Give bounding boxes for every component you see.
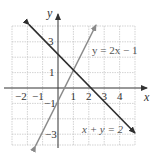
x-tick-m2: −2	[15, 90, 27, 102]
x-tick-2: 2	[86, 90, 92, 102]
graph: x y −2 −1 1 2 3 4 3 1 −1 −3 y = 2x − 1 x…	[0, 0, 159, 158]
y-tick-m3: −3	[45, 128, 57, 140]
x-tick-1: 1	[71, 90, 77, 102]
x-tick-m1: −1	[32, 90, 44, 102]
y-tick-m1: −1	[44, 97, 56, 109]
x-tick-4: 4	[117, 90, 123, 102]
equation-label-line1: y = 2x − 1	[92, 44, 137, 56]
y-axis-label: y	[46, 6, 53, 20]
equation-label-line2: x + y = 2	[81, 123, 124, 135]
y-tick-1: 1	[49, 66, 55, 78]
x-axis-label: x	[143, 90, 150, 104]
line-x-plus-y-equals-2	[29, 25, 135, 133]
